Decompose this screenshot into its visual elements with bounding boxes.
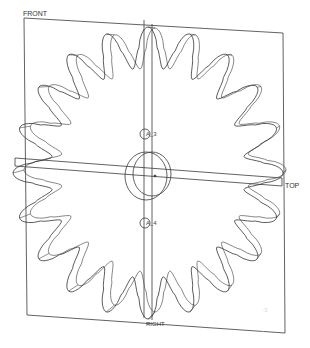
faint-mark: -: [262, 328, 264, 334]
top-datum-plane-edge[interactable]: [15, 158, 282, 178]
axis-a3-label[interactable]: A_3: [146, 131, 157, 137]
sprocket-drawing[interactable]: [0, 0, 310, 348]
faint-mark: -3: [262, 307, 267, 313]
axis-a4-label[interactable]: A_4: [146, 220, 157, 226]
right-plane-label[interactable]: RIGHT: [146, 321, 165, 327]
model-viewport[interactable]: FRONT TOP RIGHT A_3 A_4 -3 -: [0, 0, 310, 348]
sprocket-tooth-edges: [13, 27, 286, 319]
sprocket-front-profile: [13, 27, 283, 319]
front-plane-label[interactable]: FRONT: [23, 10, 47, 17]
top-plane-label[interactable]: TOP: [285, 182, 299, 189]
